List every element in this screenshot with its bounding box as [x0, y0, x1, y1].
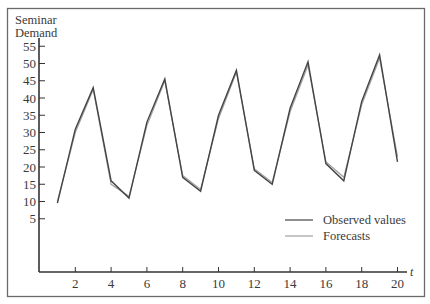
y-tick-label: 55 [23, 39, 36, 54]
x-tick-label: 16 [319, 276, 333, 291]
y-tick-label: 45 [23, 73, 36, 88]
y-tick-label: 10 [23, 194, 36, 209]
forecasts-line [57, 58, 397, 201]
y-tick-label: 30 [23, 125, 36, 140]
series-layer [57, 55, 397, 203]
x-axis: 2468101214161820 [39, 267, 407, 291]
y-tick-label: 35 [23, 108, 36, 123]
x-tick-label: 20 [391, 276, 404, 291]
x-tick-label: 14 [284, 276, 298, 291]
y-tick-label: 50 [23, 56, 36, 71]
chart-canvas: Seminar Demand 510152025303540455055 246… [0, 0, 430, 304]
x-tick-label: 18 [355, 276, 368, 291]
y-axis-title-line1: Seminar [15, 13, 57, 27]
y-tick-label: 25 [23, 142, 36, 157]
x-tick-label: 8 [179, 276, 186, 291]
legend-observed-label: Observed values [323, 213, 406, 227]
y-axis-title-line2: Demand [15, 26, 58, 40]
legend: Observed values Forecasts [285, 213, 406, 243]
y-tick-label: 5 [30, 211, 37, 226]
legend-forecasts-label: Forecasts [323, 229, 370, 243]
y-tick-label: 40 [23, 91, 36, 106]
x-tick-label: 10 [212, 276, 225, 291]
y-tick-label: 20 [23, 160, 36, 175]
x-axis-title: t [410, 265, 414, 279]
x-tick-label: 4 [108, 276, 115, 291]
y-tick-label: 15 [23, 177, 36, 192]
observed-values-line [57, 55, 397, 203]
x-tick-label: 12 [248, 276, 261, 291]
x-tick-label: 6 [144, 276, 151, 291]
x-tick-label: 2 [72, 276, 79, 291]
y-axis: 510152025303540455055 [23, 38, 45, 272]
